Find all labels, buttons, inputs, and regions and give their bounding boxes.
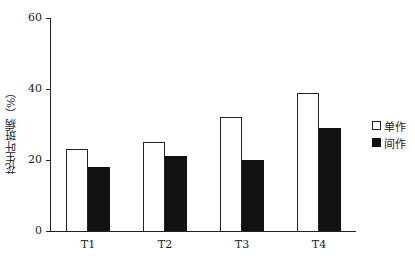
legend-item-intercrop: 间作: [372, 134, 406, 151]
x-axis-line: [50, 231, 356, 232]
legend-item-monoculture: 单作: [372, 117, 406, 134]
bar-t4-intercrop: [319, 128, 341, 231]
bar-chart: 花生叶斑病（%） 0 20 40 60 T1 T2 T3 T4 单作 间作: [0, 0, 415, 264]
bar-t1-monoculture: [66, 149, 88, 231]
bar-t2-monoculture: [143, 142, 165, 231]
bar-t2-intercrop: [165, 156, 187, 231]
y-tick-60: [46, 18, 50, 19]
y-tick-label: 60: [14, 12, 42, 24]
filled-square-icon: [372, 138, 381, 147]
y-tick-40: [46, 89, 50, 90]
x-tick-label: T3: [222, 238, 262, 251]
y-axis-line: [50, 18, 51, 231]
legend-label: 单作: [384, 118, 406, 134]
legend-label: 间作: [384, 135, 406, 151]
x-tick-label: T2: [145, 238, 185, 251]
bar-t1-intercrop: [88, 167, 110, 231]
y-tick-label: 40: [14, 83, 42, 95]
legend: 单作 间作: [372, 117, 406, 151]
y-tick-0: [46, 231, 50, 232]
bar-t4-monoculture: [297, 93, 319, 231]
open-square-icon: [372, 121, 381, 130]
x-tick-label: T4: [299, 238, 339, 251]
bar-t3-intercrop: [242, 160, 264, 231]
x-tick-label: T1: [68, 238, 108, 251]
y-tick-20: [46, 160, 50, 161]
y-tick-label: 20: [14, 154, 42, 166]
y-tick-label: 0: [14, 225, 42, 237]
bar-t3-monoculture: [220, 117, 242, 231]
